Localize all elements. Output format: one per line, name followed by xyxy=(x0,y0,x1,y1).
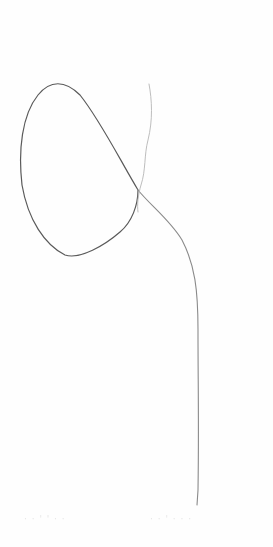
loop-stroke xyxy=(21,84,138,256)
pencil-sketch xyxy=(0,0,273,547)
bleed-through-marks-right: · · ' · · · xyxy=(150,514,192,524)
descending-stroke xyxy=(138,190,198,505)
bleed-through-marks: · · ' ' · · xyxy=(24,514,66,524)
